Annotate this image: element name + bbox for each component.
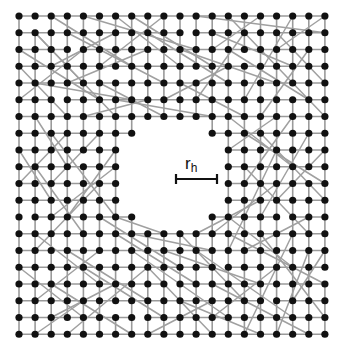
network-node [225, 197, 232, 204]
network-node [64, 79, 71, 86]
network-node [305, 280, 312, 287]
network-node [128, 29, 135, 36]
network-node [273, 29, 280, 36]
network-node [225, 331, 232, 338]
network-node [273, 180, 280, 187]
network-node [128, 46, 135, 53]
network-node [96, 230, 103, 237]
network-node [48, 130, 55, 137]
network-node [176, 96, 183, 103]
network-node [257, 314, 264, 321]
network-node [225, 146, 232, 153]
network-node [289, 230, 296, 237]
network-node [289, 113, 296, 120]
network-node [31, 163, 38, 170]
network-node [241, 280, 248, 287]
network-node [64, 46, 71, 53]
network-node [321, 264, 328, 271]
network-node [305, 247, 312, 254]
network-node [160, 247, 167, 254]
network-node [112, 113, 119, 120]
network-node [31, 264, 38, 271]
network-node [128, 12, 135, 19]
network-node [257, 264, 264, 271]
network-node [144, 230, 151, 237]
network-node [176, 331, 183, 338]
network-node [225, 297, 232, 304]
network-node [31, 280, 38, 287]
network-node [64, 63, 71, 70]
network-node [64, 113, 71, 120]
network-node [321, 46, 328, 53]
network-node [15, 314, 22, 321]
network-node [193, 247, 200, 254]
network-node [80, 297, 87, 304]
network-node [31, 79, 38, 86]
network-node [209, 314, 216, 321]
network-node [176, 280, 183, 287]
network-node [241, 331, 248, 338]
network-node [15, 79, 22, 86]
network-node [225, 163, 232, 170]
network-node [321, 113, 328, 120]
network-node [241, 146, 248, 153]
network-node [15, 130, 22, 137]
network-node [15, 29, 22, 36]
network-node [112, 213, 119, 220]
network-node [96, 146, 103, 153]
network-node [96, 96, 103, 103]
network-node [225, 130, 232, 137]
network-node [193, 12, 200, 19]
network-node [273, 297, 280, 304]
network-node [64, 230, 71, 237]
network-node [225, 213, 232, 220]
network-node [144, 29, 151, 36]
network-node [144, 264, 151, 271]
network-node [321, 130, 328, 137]
network-node [15, 163, 22, 170]
network-node [31, 146, 38, 153]
network-node [225, 280, 232, 287]
network-node [289, 297, 296, 304]
network-node [64, 163, 71, 170]
network-node [225, 247, 232, 254]
network-node [64, 247, 71, 254]
network-node [289, 264, 296, 271]
network-node [241, 264, 248, 271]
network-node [80, 146, 87, 153]
network-node [80, 264, 87, 271]
long-range-edge [132, 16, 213, 66]
network-node [225, 63, 232, 70]
network-node [96, 213, 103, 220]
network-node [160, 314, 167, 321]
network-node [273, 163, 280, 170]
network-node [96, 46, 103, 53]
network-node [273, 247, 280, 254]
network-node [112, 12, 119, 19]
network-node [80, 29, 87, 36]
network-node [209, 12, 216, 19]
network-node [112, 280, 119, 287]
network-node [15, 280, 22, 287]
network-node [273, 314, 280, 321]
network-node [321, 280, 328, 287]
network-node [273, 331, 280, 338]
network-node [193, 29, 200, 36]
network-node [241, 46, 248, 53]
network-node [305, 213, 312, 220]
network-node [96, 180, 103, 187]
network-node [176, 297, 183, 304]
network-node [144, 314, 151, 321]
network-node [144, 96, 151, 103]
network-node [160, 230, 167, 237]
network-node [305, 163, 312, 170]
network-node [15, 297, 22, 304]
network-node [128, 331, 135, 338]
network-node [80, 280, 87, 287]
network-node [289, 180, 296, 187]
network-node [64, 213, 71, 220]
network-node [241, 314, 248, 321]
network-node [257, 12, 264, 19]
network-node [48, 314, 55, 321]
network-node [209, 230, 216, 237]
